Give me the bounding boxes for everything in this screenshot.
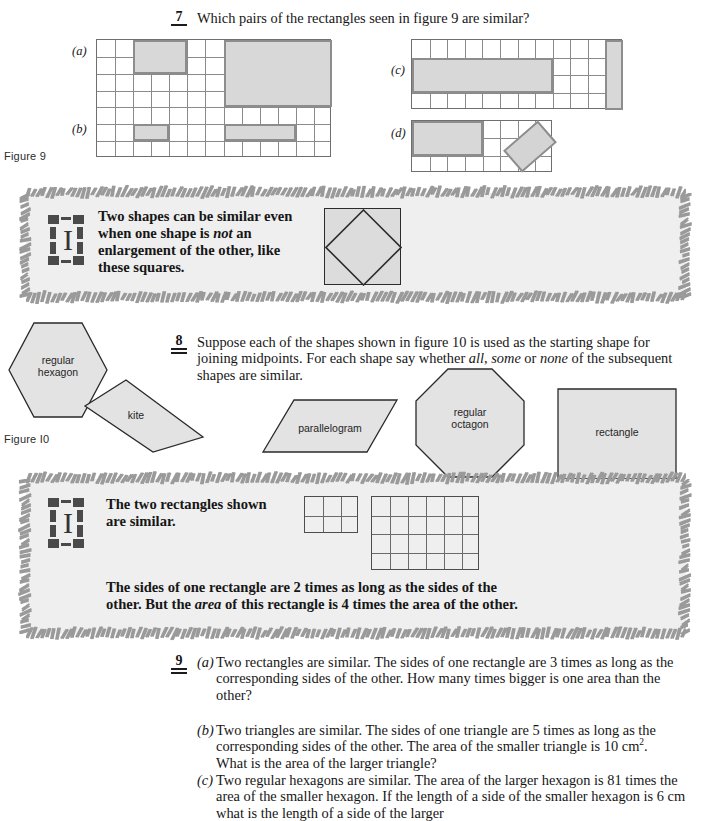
shaded-rectangle [224, 124, 296, 141]
shaded-rectangle [133, 40, 187, 74]
grid-line-horizontal [97, 141, 330, 142]
question-number-9-value: 9 [168, 654, 190, 667]
hand-drawn-border-top [26, 470, 686, 488]
part-label-c: (c) [197, 772, 213, 788]
shape-label-regular-hexagon-line1: regular [42, 354, 75, 366]
grid-line-vertical [500, 121, 501, 171]
rule-bar [171, 348, 187, 350]
rule-bar [171, 668, 187, 670]
info-box-2-bottom-text: The sides of one rectangle are 2 times a… [106, 579, 666, 613]
question-number-7-value: 7 [168, 10, 190, 23]
shape-label-parallelogram: parallelogram [298, 422, 362, 434]
figure9-left-grid [96, 39, 331, 157]
row-label-a: (a) [72, 44, 87, 59]
info-box-1-line-1: Two shapes can be similar even [98, 208, 292, 224]
shaded-rectangle [224, 40, 332, 107]
info-box-1-text: Two shapes can be similar even when one … [98, 208, 328, 276]
info-box-1-line-2-emphasis: not [213, 225, 232, 241]
figure9-grid-c [411, 39, 622, 109]
info-box-1-line-4: these squares. [98, 259, 185, 275]
figure10-caption: Figure I0 [4, 433, 49, 445]
info-box-2-bottom-line-2-pre: other. But the [106, 596, 195, 612]
emphasis-all: all [469, 350, 484, 366]
row-label-c: (c) [391, 63, 405, 78]
info-box-similar-shapes: I Two shapes can be similar even when on… [26, 193, 686, 298]
info-box-2-bottom-line-1: The sides of one rectangle are 2 times a… [106, 579, 497, 595]
grid-line-vertical [444, 497, 445, 569]
hand-drawn-border-bottom [26, 289, 686, 307]
grid-line-vertical [390, 497, 391, 569]
part-text-c: Two regular hexagons are similar. The ar… [216, 772, 687, 821]
emphasis-none: none [540, 350, 568, 366]
shaded-rectangle [412, 121, 483, 156]
shape-label-rectangle: rectangle [595, 426, 638, 438]
rule-bar-2 [171, 352, 187, 354]
hand-drawn-border-left [17, 193, 35, 298]
grid-line-vertical [570, 40, 571, 108]
grid-line-horizontal [372, 516, 478, 517]
emphasis-some: some [491, 350, 521, 366]
question-9-part-a: (a) Two rectangles are similar. The side… [197, 654, 677, 703]
hand-drawn-border-bottom [26, 625, 686, 643]
info-box-2-bottom-emphasis: area [195, 596, 222, 612]
info-box-1-line-2-post: an [233, 225, 252, 241]
shape-label-kite: kite [128, 409, 144, 421]
info-marker-letter: I [48, 508, 88, 538]
grid-line-vertical [323, 497, 324, 532]
part-label-a: (a) [197, 654, 214, 670]
info-box-2-line-1: The two rectangles shown [106, 496, 267, 512]
question-9-part-c: (c) Two regular hexagons are similar. Th… [197, 772, 687, 821]
info-box-2-small-rectangle [304, 496, 358, 533]
grid-line-vertical [408, 497, 409, 569]
info-box-2-large-rectangle [371, 496, 479, 570]
part-text-a: Two rectangles are similar. The sides of… [216, 654, 677, 703]
shape-label-regular-octagon-line1: regular [454, 406, 487, 418]
grid-line-horizontal [372, 534, 478, 535]
question-number-7: 7 [168, 10, 190, 26]
question-7-text: Which pairs of the rectangles seen in fi… [197, 10, 677, 26]
part-label-b: (b) [197, 722, 214, 738]
hand-drawn-border-right [677, 479, 695, 634]
question-number-8: 8 [168, 334, 190, 354]
question-number-8-value: 8 [168, 334, 190, 347]
info-box-2-line-2: are similar. [106, 513, 176, 529]
grid-line-horizontal [412, 93, 621, 94]
grid-line-horizontal [305, 516, 357, 517]
grid-line-vertical [426, 497, 427, 569]
shape-label-regular-octagon-line2: octagon [451, 418, 488, 430]
shape-label-regular-hexagon-line2: hexagon [38, 366, 78, 378]
rule-bar [171, 24, 187, 26]
grid-line-horizontal [97, 107, 330, 108]
grid-line-vertical [483, 121, 484, 171]
grid-line-vertical [553, 40, 554, 108]
hand-drawn-border-top [26, 184, 686, 202]
shape-regular-octagon: regular octagon [415, 368, 525, 478]
info-box-2-bottom-line-2-post: of this rectangle is 4 times the area of… [221, 596, 517, 612]
shape-rectangle: rectangle [557, 388, 677, 480]
square-with-diamond-figure [324, 208, 401, 285]
hand-drawn-border-right [677, 193, 695, 298]
info-box-1-line-3: enlargement of the other, like [98, 242, 280, 258]
figure9-caption: Figure 9 [4, 150, 46, 162]
question-9-part-b: (b) Two triangles are similar. The sides… [197, 722, 677, 771]
tilted-shaded-rectangle [503, 121, 557, 173]
row-label-b: (b) [72, 122, 87, 137]
hand-drawn-border-left [17, 479, 35, 634]
info-marker-icon: I [48, 215, 88, 265]
question-number-9: 9 [168, 654, 190, 674]
info-box-1-line-2-pre: when one shape is [98, 225, 213, 241]
info-box-area-ratio: I The two rectangles shown are similar. … [26, 479, 686, 634]
part-text-b: Two triangles are similar. The sides of … [216, 722, 677, 771]
figure9-grid-d [411, 120, 552, 172]
info-marker-letter: I [48, 225, 88, 255]
row-label-d: (d) [391, 126, 406, 141]
shape-kite: kite [84, 378, 204, 454]
info-marker-icon: I [48, 498, 88, 548]
shaded-rectangle [133, 124, 169, 141]
grid-line-vertical [462, 497, 463, 569]
rule-bar-2 [171, 672, 187, 674]
grid-line-horizontal [372, 553, 478, 554]
shape-parallelogram: parallelogram [262, 398, 398, 454]
shaded-rectangle [412, 58, 553, 93]
